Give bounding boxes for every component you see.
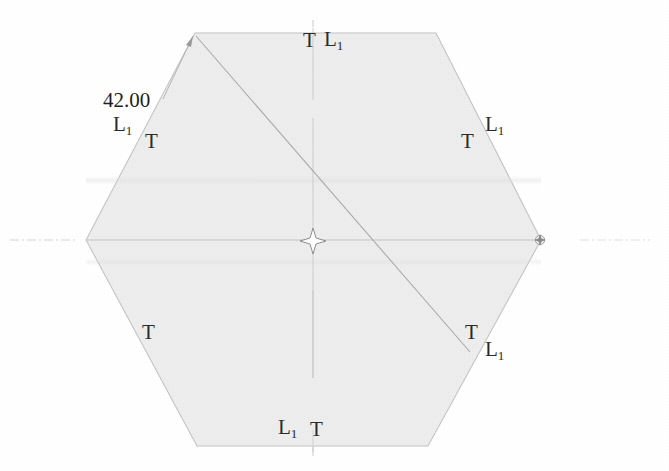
label-top-L1-letter: L — [324, 27, 337, 51]
label-top-left-T: T — [145, 131, 158, 152]
label-top-left-L1-letter: L — [113, 112, 126, 136]
label-bottom-right-L1: L1 — [485, 339, 504, 360]
hexagon-drawing-canvas — [0, 0, 669, 471]
label-top-right-L1-subscript: 1 — [498, 123, 505, 138]
label-bottom-L1-subscript: 1 — [291, 426, 298, 441]
label-bottom-right-T: T — [465, 322, 478, 343]
label-top-right-L1-letter: L — [485, 112, 498, 136]
label-bottom-T: T — [310, 419, 323, 440]
label-top-right-T: T — [461, 131, 474, 152]
dimension-value-42: 42.00 — [103, 88, 150, 113]
label-top-right-L1: L1 — [485, 114, 504, 135]
label-bottom-left-T: T — [142, 322, 155, 343]
label-bottom-L1: L1 — [278, 417, 297, 438]
label-bottom-L1-letter: L — [278, 415, 291, 439]
scan-crease-upper — [86, 176, 541, 185]
label-top-left-L1: L1 — [113, 114, 132, 135]
scan-crease-lower — [86, 258, 541, 266]
label-bottom-right-L1-subscript: 1 — [498, 348, 505, 363]
label-top-T: T — [303, 30, 316, 51]
label-top-L1: L1 — [324, 29, 343, 50]
label-bottom-right-L1-letter: L — [485, 337, 498, 361]
label-top-L1-subscript: 1 — [337, 38, 344, 53]
label-top-left-L1-subscript: 1 — [126, 123, 133, 138]
